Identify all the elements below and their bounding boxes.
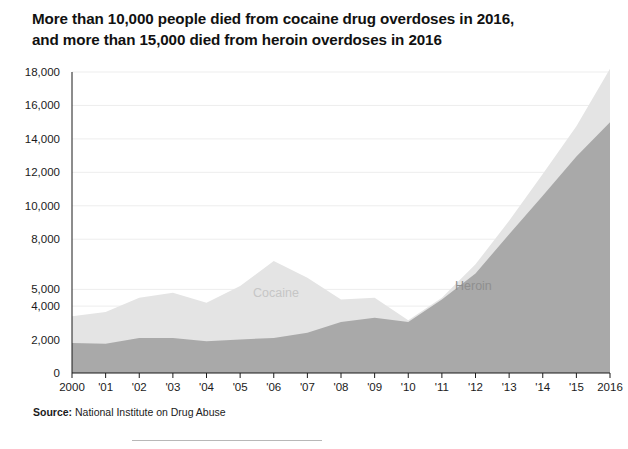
y-axis-tick-label: 8,000 bbox=[0, 233, 60, 245]
x-axis-ticks bbox=[72, 373, 610, 378]
y-axis-tick-label: 0 bbox=[0, 367, 60, 379]
y-axis-tick-label: 12,000 bbox=[0, 166, 60, 178]
chart-title: More than 10,000 people died from cocain… bbox=[32, 8, 612, 50]
chart-figure: More than 10,000 people died from cocain… bbox=[0, 0, 628, 449]
x-axis-tick-label: 2016 bbox=[590, 381, 628, 393]
y-axis-tick-label: 2,000 bbox=[0, 334, 60, 346]
chart-title-line-2: and more than 15,000 died from heroin ov… bbox=[32, 29, 612, 50]
y-axis-tick-label: 10,000 bbox=[0, 200, 60, 212]
area-chart-svg bbox=[0, 60, 628, 385]
y-axis-tick-label: 14,000 bbox=[0, 133, 60, 145]
y-axis-tick-label: 16,000 bbox=[0, 99, 60, 111]
source-label: Source: bbox=[33, 406, 72, 418]
series-label-heroin: Heroin bbox=[455, 279, 492, 293]
y-axis-tick-label: 5,000 bbox=[0, 283, 60, 295]
bottom-divider bbox=[132, 440, 322, 441]
source-note: Source: National Institute on Drug Abuse bbox=[33, 406, 226, 418]
y-axis-tick-label: 4,000 bbox=[0, 300, 60, 312]
chart-title-line-1: More than 10,000 people died from cocain… bbox=[32, 8, 612, 29]
series-label-cocaine: Cocaine bbox=[253, 286, 299, 300]
source-text: National Institute on Drug Abuse bbox=[72, 406, 226, 418]
plot-area: 02,0004,0005,0008,00010,00012,00014,0001… bbox=[0, 60, 628, 385]
y-axis-tick-label: 18,000 bbox=[0, 66, 60, 78]
series-areas bbox=[72, 69, 610, 373]
